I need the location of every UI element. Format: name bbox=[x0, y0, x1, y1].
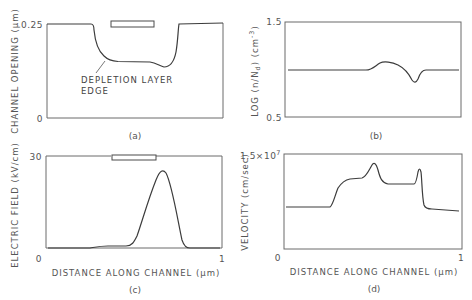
panel-c-ytick-top: 30 bbox=[30, 152, 42, 162]
panel-b: 1.5 0.5 LOG (n/Nd) (cm-3) (b) bbox=[248, 17, 461, 141]
panel-c-label: (c) bbox=[129, 285, 141, 295]
panel-a-annotation-line1: DEPLETION LAYER bbox=[81, 75, 173, 85]
panel-d-label: (d) bbox=[368, 284, 381, 294]
panel-a-frame bbox=[47, 23, 223, 118]
panel-a-gate-bar bbox=[111, 21, 154, 27]
panel-d: 1.5×107 0 1 DISTANCE ALONG CHANNEL (μm) … bbox=[240, 149, 464, 294]
panel-c-ylabel: ELECTRIC FIELD (kV/cm) bbox=[10, 142, 20, 268]
panel-c-field-curve bbox=[48, 171, 220, 248]
panel-c-xtick-right: 1 bbox=[219, 254, 225, 264]
panel-a-ytick-top: 0.25 bbox=[21, 20, 43, 30]
panel-b-ytick-bottom: 0.5 bbox=[266, 113, 282, 123]
panel-b-concentration-curve bbox=[288, 62, 459, 82]
figure-canvas: 0.25 0 DEPLETION LAYER EDGE CHANNEL OPEN… bbox=[0, 0, 472, 300]
panel-a: 0.25 0 DEPLETION LAYER EDGE CHANNEL OPEN… bbox=[10, 8, 223, 141]
panel-d-ytick-bottom: 0 bbox=[275, 253, 281, 263]
panel-b-ylabel: LOG (n/Nd) (cm-3) bbox=[248, 25, 262, 117]
panel-a-annotation-line2: EDGE bbox=[81, 86, 109, 96]
panel-d-frame bbox=[284, 154, 462, 249]
panel-a-depletion-curve bbox=[47, 23, 223, 67]
panel-a-label: (a) bbox=[129, 131, 142, 141]
panel-b-ytick-top: 1.5 bbox=[266, 17, 282, 27]
panel-c-xlabel: DISTANCE ALONG CHANNEL (μm) bbox=[52, 268, 221, 278]
panel-a-ylabel: CHANNEL OPENING (μm) bbox=[10, 8, 20, 134]
panel-c-ytick-bottom: 0 bbox=[36, 254, 42, 264]
panel-a-ytick-bottom: 0 bbox=[37, 114, 43, 124]
panel-c-frame bbox=[46, 156, 222, 248]
panel-d-ylabel: VELOCITY (cm/sec) bbox=[240, 153, 250, 251]
panel-c-gate-bar bbox=[112, 155, 156, 160]
panel-d-velocity-curve bbox=[286, 163, 459, 211]
panel-c: 30 0 1 DISTANCE ALONG CHANNEL (μm) ELECT… bbox=[10, 142, 225, 295]
panel-a-annotation-leader bbox=[96, 61, 105, 73]
panel-b-label: (b) bbox=[370, 131, 383, 141]
panel-d-xlabel: DISTANCE ALONG CHANNEL (μm) bbox=[290, 267, 459, 277]
panel-d-xtick-right: 1 bbox=[458, 253, 464, 263]
